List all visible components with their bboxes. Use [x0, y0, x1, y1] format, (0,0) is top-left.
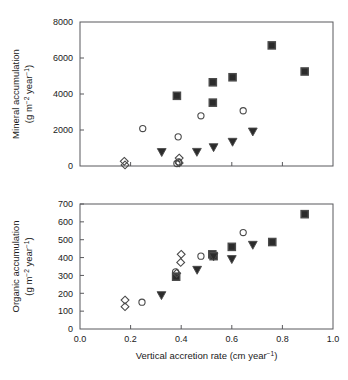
data-point-square — [173, 92, 180, 99]
bottom-plot-frame — [80, 204, 333, 329]
data-point-square — [269, 238, 276, 245]
bottom-ytick-label: 300 — [58, 271, 73, 281]
data-point-square — [209, 79, 216, 86]
figure-container: 02000400060008000Mineral accumulation(g … — [0, 0, 348, 380]
top-ylabel-close: ) — [23, 65, 34, 68]
top-ytick-label: 6000 — [53, 53, 73, 63]
data-point-triangle — [248, 241, 257, 249]
data-point-square — [229, 74, 236, 81]
top-ylabel-mid: year — [23, 76, 34, 97]
x-axis-title-close: ) — [274, 350, 277, 361]
bottom-xtick-label: 0.0 — [74, 334, 87, 344]
organic-accumulation-panel: 01002003004005006007000.00.20.40.60.81.0 — [58, 199, 339, 344]
data-point-square — [301, 211, 308, 218]
mineral-accumulation-panel: 02000400060008000 — [53, 17, 333, 171]
data-point-triangle — [209, 144, 218, 152]
data-point-square — [209, 99, 216, 106]
data-point-square — [301, 68, 308, 75]
bottom-ylabel-close: ) — [23, 237, 34, 240]
bottom-ytick-label: 700 — [58, 199, 73, 209]
top-ytick-label: 2000 — [53, 125, 73, 135]
data-point-circle — [198, 113, 204, 119]
bottom-xtick-label: 1.0 — [327, 334, 340, 344]
data-point-triangle — [157, 149, 166, 157]
data-point-square — [228, 243, 235, 250]
bottom-ylabel-line1: Organic accumulation — [10, 221, 21, 313]
top-ytick-label: 4000 — [53, 89, 73, 99]
data-point-triangle — [248, 128, 257, 136]
bottom-ytick-label: 500 — [58, 235, 73, 245]
top-ytick-label: 0 — [68, 161, 73, 171]
bottom-ytick-label: 0 — [68, 324, 73, 334]
x-axis-title: Vertical accretion rate (cm year−1) — [136, 350, 278, 361]
data-point-circle — [198, 253, 204, 259]
data-point-triangle — [192, 148, 201, 156]
top-ytick-label: 8000 — [53, 17, 73, 27]
bottom-xtick-label: 0.6 — [226, 334, 239, 344]
top-ylabel-line2: (g m−2 year−1) — [23, 65, 34, 123]
data-point-circle — [240, 108, 246, 114]
bottom-ytick-label: 200 — [58, 289, 73, 299]
data-point-square — [268, 42, 275, 49]
data-point-triangle — [193, 266, 202, 274]
data-point-diamond — [177, 258, 185, 266]
top-plot-frame — [80, 22, 333, 166]
data-point-circle — [140, 125, 146, 131]
data-point-triangle — [227, 256, 236, 264]
bottom-xtick-label: 0.8 — [276, 334, 289, 344]
data-point-diamond — [177, 250, 185, 258]
bottom-xtick-label: 0.4 — [175, 334, 188, 344]
bottom-ylabel-group: Organic accumulation(g m−2 year−1) — [10, 221, 34, 313]
data-point-circle — [139, 299, 145, 305]
bottom-ytick-label: 600 — [58, 217, 73, 227]
data-point-circle — [175, 134, 181, 140]
data-point-triangle — [157, 292, 166, 300]
bottom-ylabel-mid: year — [23, 248, 34, 269]
scatter-figure: 02000400060008000Mineral accumulation(g … — [0, 0, 348, 380]
bottom-ylabel-line2: (g m−2 year−1) — [23, 237, 34, 295]
bottom-ytick-label: 400 — [58, 253, 73, 263]
top-ylabel-group: Mineral accumulation(g m−2 year−1) — [10, 49, 34, 139]
data-point-circle — [240, 229, 246, 235]
bottom-xtick-label: 0.2 — [124, 334, 137, 344]
bottom-ytick-label: 100 — [58, 306, 73, 316]
data-point-triangle — [228, 138, 237, 146]
top-ylabel-line1: Mineral accumulation — [10, 49, 21, 139]
